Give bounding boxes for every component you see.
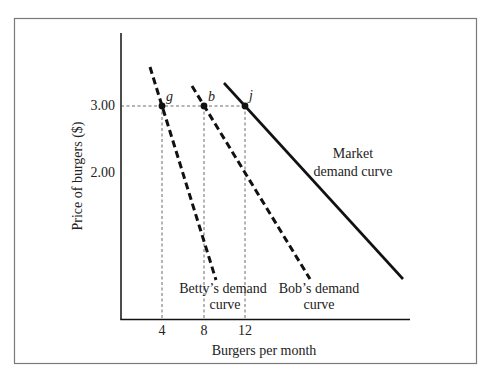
- point-b-label: b: [208, 89, 215, 104]
- y-tick-2-00: 2.00: [91, 165, 116, 180]
- point-g-marker: [159, 103, 166, 110]
- y-axis-title: Price of burgers ($): [70, 121, 86, 230]
- bob-label-line1: Bob’s demand: [279, 281, 360, 296]
- market-label-line1: Market: [333, 146, 374, 161]
- x-tick-8: 8: [201, 323, 208, 338]
- point-g-label: g: [166, 89, 173, 104]
- bob-label-line2: curve: [303, 297, 334, 312]
- demand-curve-chart: g b j 3.00 2.00 4 8 12 Burgers per month…: [0, 0, 487, 381]
- y-tick-3-00: 3.00: [91, 98, 116, 113]
- x-axis-title: Burgers per month: [212, 343, 317, 358]
- market-label-line2: demand curve: [314, 164, 393, 179]
- point-j-marker: [242, 103, 249, 110]
- x-tick-12: 12: [238, 323, 252, 338]
- betty-label-line1: Betty’s demand: [179, 281, 267, 296]
- betty-label-line2: curve: [209, 297, 240, 312]
- x-tick-4: 4: [159, 323, 166, 338]
- point-b-marker: [201, 103, 208, 110]
